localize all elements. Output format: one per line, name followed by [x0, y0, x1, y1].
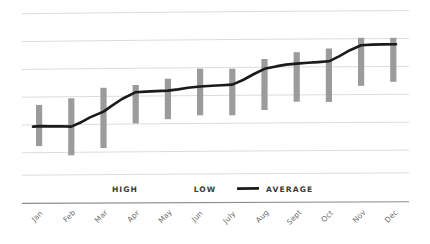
legend-label-average: AVERAGE	[266, 185, 313, 194]
chart-background	[0, 0, 430, 244]
legend-label-low: LOW	[194, 185, 217, 194]
range-bar-aug	[261, 59, 267, 110]
range-bar-sept	[294, 52, 300, 101]
range-bar-jun	[197, 69, 203, 116]
range-bar-july	[229, 69, 235, 116]
range-bar-may	[165, 79, 171, 120]
high-low-average-chart: HIGH LOW AVERAGE Jan Feb Mar Apr May Jun…	[0, 0, 430, 244]
range-bar-oct	[326, 49, 332, 102]
legend-label-high: HIGH	[112, 185, 138, 194]
range-bar-mar	[100, 88, 106, 148]
